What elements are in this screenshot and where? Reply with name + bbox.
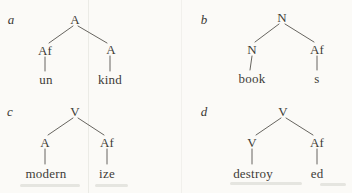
edge-c-root-right xyxy=(78,118,104,135)
tree-b-label: b xyxy=(201,13,208,26)
tree-edges-layer xyxy=(0,0,352,193)
tree-c-left-word: modern xyxy=(26,167,67,180)
tree-a-left-node: Af xyxy=(38,44,52,57)
tree-d-left-node: V xyxy=(247,136,257,149)
edge-b-left-word xyxy=(250,56,252,70)
edge-c-root-left xyxy=(48,118,73,135)
tree-b-left-word: book xyxy=(239,72,266,85)
tree-a-right-node: A xyxy=(106,43,116,56)
tree-d-label: d xyxy=(201,105,208,118)
tree-a-right-word: kind xyxy=(98,73,122,86)
tree-b-right-node: Af xyxy=(310,43,324,56)
tree-c-root-node: V xyxy=(70,105,80,118)
tree-b-root-node: N xyxy=(277,11,287,24)
edge-b-root-left xyxy=(255,24,279,42)
scanned-book-figure: a A Af A un kind b N N Af book s c V A A… xyxy=(0,0,352,193)
tree-d-right-word: ed xyxy=(311,167,324,180)
edge-a-root-left xyxy=(49,26,73,43)
edge-d-root-left xyxy=(256,118,281,135)
tree-a-label: a xyxy=(8,13,15,26)
tree-d-left-word: destroy xyxy=(233,167,273,180)
tree-c-right-word: ize xyxy=(99,167,115,180)
tree-d-right-node: Af xyxy=(310,136,324,149)
tree-a-left-word: un xyxy=(39,73,52,86)
tree-a-root-node: A xyxy=(70,13,80,26)
edge-d-root-right xyxy=(286,118,313,135)
tree-c-label: c xyxy=(7,105,13,118)
tree-c-left-node: A xyxy=(40,136,50,149)
edge-a-root-right xyxy=(78,26,107,43)
tree-d-root-node: V xyxy=(278,105,288,118)
tree-b-left-node: N xyxy=(247,43,257,56)
tree-b-right-word: s xyxy=(314,72,319,85)
edge-b-root-right xyxy=(285,24,314,42)
tree-c-right-node: Af xyxy=(100,136,114,149)
